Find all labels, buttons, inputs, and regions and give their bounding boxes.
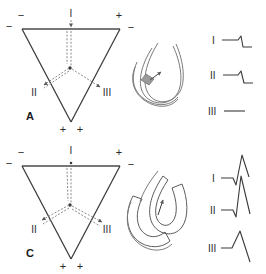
tracing-lead-label-III-c: III [208,243,216,254]
polarity-top-left-outer-a: − [6,20,12,32]
polarity-top-left-outer-c: − [6,157,12,169]
polarity-bottom-right-c: + [77,260,83,272]
lead-label-III-c: III [103,224,111,235]
panel-label-c: C [26,247,34,259]
polarity-bottom-left-c: + [60,260,66,272]
tracing-lead-label-I-a: I [212,35,215,46]
tracing-lead-label-II-c: II [210,205,216,216]
panel-label-a: A [26,110,34,122]
tracing-lead-label-I-c: I [212,173,215,184]
lead-label-I-a: I [70,8,73,19]
polarity-bottom-right-a: + [77,123,83,135]
lead-I-marker-c [70,162,73,165]
polarity-top-left-above-c: − [18,146,24,158]
lead-label-I-c: I [70,145,73,156]
lead-label-II-c: II [31,224,37,235]
polarity-top-right-above-c: + [116,146,122,158]
tracing-lead-label-III-a: III [208,106,216,117]
lead-label-III-a: III [103,87,111,98]
polarity-top-right-outer-c: − [128,158,134,170]
polarity-top-right-outer-a: − [128,21,134,33]
canvas-background [0,0,266,274]
figure-canvas: − − + − + + I II III A [0,0,266,274]
polarity-top-left-above-a: − [18,9,24,21]
tracing-lead-label-II-a: II [210,70,216,81]
lead-label-II-a: II [31,87,37,98]
figure-root: − − + − + + I II III A [0,0,266,274]
polarity-top-right-above-a: + [116,9,122,21]
polarity-bottom-left-a: + [60,123,66,135]
